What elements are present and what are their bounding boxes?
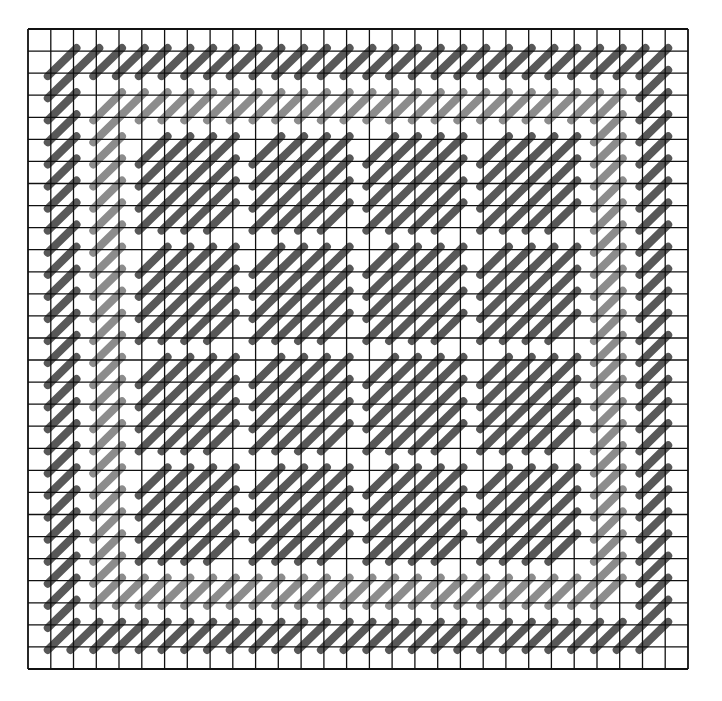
- dimer-board: [0, 0, 722, 701]
